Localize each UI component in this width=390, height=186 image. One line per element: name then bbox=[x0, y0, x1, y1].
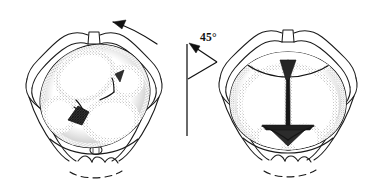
angle-leg-lower bbox=[188, 62, 217, 79]
coccyx-left-bump bbox=[78, 156, 92, 162]
angle-indicator-group: 45° bbox=[187, 31, 217, 136]
right-pelvic-floor-dashed-arc bbox=[264, 170, 316, 177]
right-coccyx-left-bump bbox=[271, 155, 285, 161]
right-panel-group bbox=[219, 30, 357, 177]
left-panel-group bbox=[22, 20, 168, 178]
right-coccyx-right-bump bbox=[298, 157, 311, 162]
pubic-symphysis-right bbox=[282, 30, 294, 42]
pelvic-floor-dashed-arc bbox=[70, 171, 122, 178]
angle-leg-upper bbox=[196, 48, 217, 62]
right-coccyx-center-bump bbox=[285, 156, 298, 161]
angle-label: 45° bbox=[200, 31, 217, 43]
angle-arrow-head bbox=[189, 43, 200, 53]
rotation-arrow-head bbox=[113, 20, 126, 29]
pubic-symphysis-left bbox=[88, 32, 100, 44]
coccyx-center-bump bbox=[92, 157, 105, 162]
illustration-canvas: 45° bbox=[0, 0, 390, 186]
left-rotation-arrow bbox=[113, 20, 157, 44]
fetal-rotation-figure: 45° bbox=[0, 0, 390, 186]
right-fetal-skull bbox=[230, 48, 346, 152]
left-fetal-skull bbox=[22, 26, 168, 167]
